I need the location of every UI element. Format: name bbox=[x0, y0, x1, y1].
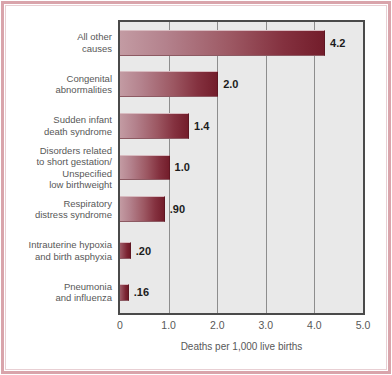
plot-area: 4.22.01.41.0.90.20.16 bbox=[118, 20, 365, 315]
bar bbox=[120, 71, 218, 97]
bar-value-label: .16 bbox=[134, 286, 149, 298]
bar-value-label: 4.2 bbox=[330, 37, 345, 49]
bar-row: .20 bbox=[120, 242, 363, 259]
bar-chart: All other causesCongenital abnormalities… bbox=[0, 0, 392, 375]
category-label: All other causes bbox=[0, 31, 112, 54]
bar bbox=[120, 196, 165, 222]
category-label: Congenital abnormalities bbox=[0, 73, 112, 96]
bar-row: 2.0 bbox=[120, 71, 363, 97]
bar-row: 1.0 bbox=[120, 155, 363, 181]
x-tick-2.0: 2.0 bbox=[210, 319, 225, 331]
x-tick-4.0: 4.0 bbox=[307, 319, 322, 331]
category-label: Pneumonia and influenza bbox=[0, 281, 112, 304]
bar-value-label: 1.4 bbox=[194, 120, 209, 132]
bar-value-label: 1.0 bbox=[175, 161, 190, 173]
chart-figure: All other causesCongenital abnormalities… bbox=[0, 0, 392, 375]
x-tick-0: 0 bbox=[117, 319, 123, 331]
x-tick-5.0: 5.0 bbox=[356, 319, 371, 331]
bar-value-label: 2.0 bbox=[223, 78, 238, 90]
bar-row: 4.2 bbox=[120, 30, 363, 56]
x-axis-tick-labels: 01.02.03.04.05.0 bbox=[118, 319, 365, 335]
category-label: Intrauterine hypoxia and birth asphyxia bbox=[0, 239, 112, 262]
bar-row: .16 bbox=[120, 284, 363, 301]
bar bbox=[120, 30, 325, 56]
bar-value-label: .20 bbox=[136, 245, 151, 257]
bar bbox=[120, 284, 129, 301]
category-label: Respiratory distress syndrome bbox=[0, 198, 112, 221]
category-axis-labels: All other causesCongenital abnormalities… bbox=[0, 20, 112, 315]
bar bbox=[120, 242, 131, 259]
bar-series: 4.22.01.41.0.90.20.16 bbox=[120, 22, 363, 313]
bar bbox=[120, 155, 170, 181]
category-label: Disorders related to short gestation/ Un… bbox=[0, 145, 112, 191]
bar-row: .90 bbox=[120, 196, 363, 222]
category-label: Sudden infant death syndrome bbox=[0, 114, 112, 137]
x-tick-3.0: 3.0 bbox=[258, 319, 273, 331]
bar-value-label: .90 bbox=[170, 203, 185, 215]
x-axis-title: Deaths per 1,000 live births bbox=[118, 341, 365, 352]
bar bbox=[120, 113, 189, 139]
bar-row: 1.4 bbox=[120, 113, 363, 139]
x-tick-1.0: 1.0 bbox=[161, 319, 176, 331]
